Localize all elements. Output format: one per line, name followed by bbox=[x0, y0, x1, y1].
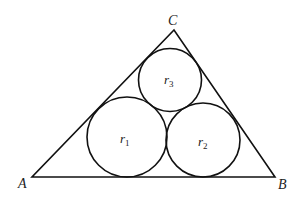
radius-r2-subscript: 2 bbox=[203, 141, 208, 151]
radius-label-r1: r1 bbox=[120, 131, 130, 148]
triangle-circles-diagram: A B C r1 r2 r3 bbox=[0, 0, 305, 199]
diagram-canvas: A B C r1 r2 r3 bbox=[0, 0, 305, 199]
vertex-label-a: A bbox=[17, 176, 27, 191]
radius-label-r3: r3 bbox=[164, 72, 174, 89]
vertex-label-b: B bbox=[278, 177, 287, 192]
circle-r1 bbox=[87, 97, 167, 177]
radius-r1-subscript: 1 bbox=[125, 138, 130, 148]
triangle-abc bbox=[32, 30, 275, 177]
radius-label-r2: r2 bbox=[198, 134, 208, 151]
vertex-label-c: C bbox=[168, 13, 178, 28]
radius-r3-subscript: 3 bbox=[169, 79, 174, 89]
